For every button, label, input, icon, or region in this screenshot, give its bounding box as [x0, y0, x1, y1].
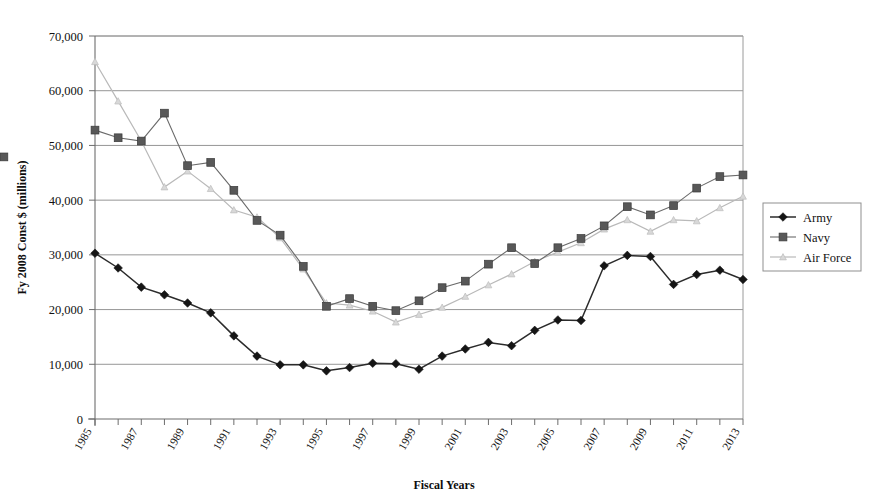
data-point-navy — [531, 260, 539, 268]
data-point-navy — [415, 297, 423, 305]
x-tick-label: 2005 — [535, 426, 557, 452]
data-point-air-force — [624, 216, 631, 222]
data-point-army — [438, 352, 447, 361]
data-point-navy — [91, 126, 99, 134]
y-tick-label: 0 — [77, 413, 83, 427]
x-tick-label: 1993 — [257, 426, 279, 452]
data-point-navy — [554, 244, 562, 252]
data-point-air-force — [115, 98, 122, 104]
data-point-navy — [577, 235, 585, 243]
x-tick-label: 2007 — [581, 426, 603, 452]
data-point-army — [484, 338, 493, 347]
series-line-air-force — [95, 62, 743, 322]
data-point-navy — [161, 109, 169, 117]
data-point-army — [299, 361, 308, 370]
data-point-navy — [716, 173, 724, 181]
data-point-army — [716, 266, 725, 275]
data-point-army — [368, 359, 377, 368]
x-tick-label: 1987 — [118, 426, 140, 452]
data-point-army — [623, 251, 632, 260]
data-point-navy — [600, 222, 608, 230]
line-chart: 010,00020,00030,00040,00050,00060,00070,… — [0, 0, 870, 499]
data-point-air-force — [161, 184, 168, 190]
x-tick-label: 2013 — [720, 426, 742, 452]
data-point-navy — [369, 302, 377, 310]
data-point-navy — [230, 186, 238, 194]
data-point-navy — [670, 202, 678, 210]
data-point-air-force — [485, 282, 492, 288]
data-point-army — [507, 341, 516, 350]
data-point-navy — [184, 162, 192, 170]
y-tick-label: 10,000 — [49, 358, 83, 372]
data-point-navy — [276, 231, 284, 239]
data-point-air-force — [647, 228, 654, 234]
x-tick-label: 1997 — [350, 426, 372, 452]
legend-label-army: Army — [803, 211, 833, 225]
x-tick-label: 1991 — [211, 426, 233, 452]
legend-marker-navy — [779, 233, 787, 241]
data-point-army — [276, 361, 285, 370]
data-point-navy — [253, 216, 261, 224]
x-tick-label: 2009 — [627, 426, 649, 452]
data-point-navy — [647, 211, 655, 219]
y-axis-title: Fy 2008 Const $ (millions) — [15, 160, 29, 294]
data-point-navy — [392, 307, 400, 315]
data-point-army — [392, 359, 401, 368]
data-point-army — [160, 290, 169, 299]
data-point-army — [91, 249, 100, 258]
data-point-army — [461, 345, 470, 354]
data-point-army — [739, 275, 748, 284]
data-point-army — [600, 262, 609, 271]
y-tick-label: 50,000 — [49, 139, 83, 153]
data-point-navy — [739, 171, 747, 179]
data-point-navy — [137, 137, 145, 145]
data-point-navy — [299, 262, 307, 270]
series-line-navy — [95, 113, 743, 311]
data-point-army — [183, 299, 192, 308]
data-point-army — [577, 316, 586, 325]
x-tick-label: 2011 — [674, 426, 696, 452]
data-point-army — [322, 367, 331, 376]
data-point-air-force — [92, 58, 99, 64]
data-point-air-force — [439, 304, 446, 310]
data-point-navy — [508, 244, 516, 252]
data-point-army — [530, 326, 539, 335]
data-point-air-force — [462, 293, 469, 299]
y-tick-label: 70,000 — [49, 30, 83, 44]
data-point-army — [692, 270, 701, 279]
x-tick-label: 1989 — [164, 426, 186, 452]
x-tick-label: 1999 — [396, 426, 418, 452]
legend-label-air-force: Air Force — [803, 251, 852, 265]
data-point-navy — [485, 260, 493, 268]
data-point-navy — [461, 277, 469, 285]
x-tick-label: 1995 — [303, 426, 325, 452]
data-point-army — [554, 316, 563, 325]
data-point-navy — [693, 184, 701, 192]
data-point-air-force — [740, 193, 747, 199]
x-tick-label: 2003 — [488, 426, 510, 452]
data-point-army — [415, 365, 424, 374]
data-point-navy — [207, 158, 215, 166]
data-point-air-force — [716, 204, 723, 210]
data-point-air-force — [508, 271, 515, 277]
y-tick-label: 60,000 — [49, 84, 83, 98]
data-point-navy — [623, 203, 631, 211]
data-point-navy — [438, 284, 446, 292]
x-tick-label: 2001 — [442, 426, 464, 452]
data-point-navy — [323, 302, 331, 310]
y-tick-label: 40,000 — [49, 194, 83, 208]
data-point-navy — [114, 134, 122, 142]
chart-container: 010,00020,00030,00040,00050,00060,00070,… — [0, 0, 870, 499]
legend-label-navy: Navy — [803, 231, 831, 245]
data-point-navy — [0, 153, 8, 161]
data-point-navy — [346, 295, 354, 303]
y-tick-label: 30,000 — [49, 248, 83, 262]
x-tick-label: 1985 — [72, 426, 94, 452]
y-tick-label: 20,000 — [49, 303, 83, 317]
x-axis-title: Fiscal Years — [413, 478, 475, 492]
